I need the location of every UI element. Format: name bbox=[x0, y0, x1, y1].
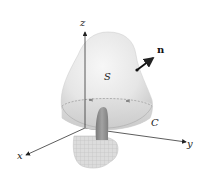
normal-label: n bbox=[157, 44, 165, 55]
curve-label: C bbox=[151, 117, 159, 128]
z-axis-label: z bbox=[79, 17, 86, 28]
right-hand-icon bbox=[73, 136, 118, 168]
x-axis-label: x bbox=[17, 150, 23, 161]
y-axis-label: y bbox=[186, 138, 193, 149]
surface-label: S bbox=[104, 71, 111, 82]
stokes-theorem-diagram: z y x S n C bbox=[0, 0, 212, 187]
